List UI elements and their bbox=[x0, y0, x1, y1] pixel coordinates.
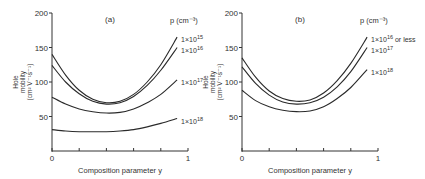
y-tick-label: 200 bbox=[35, 9, 49, 18]
series-label: 1×1016 or less bbox=[371, 34, 416, 43]
legend-title: p (cm⁻³) bbox=[360, 16, 388, 25]
y-tick-label: 200 bbox=[225, 9, 239, 18]
svg-text:(cm² V⁻¹s⁻¹): (cm² V⁻¹s⁻¹) bbox=[216, 64, 224, 101]
series-line bbox=[242, 48, 367, 105]
figure: 5010015020001Composition parameter yHole… bbox=[0, 0, 425, 179]
y-axis-label: Holemobility(cm² V⁻¹s⁻¹) bbox=[202, 64, 224, 101]
panel-b: 5010015020001Composition parameter yHole… bbox=[202, 9, 416, 175]
panel-a: 5010015020001Composition parameter yHole… bbox=[12, 9, 203, 175]
y-tick-label: 100 bbox=[225, 78, 239, 87]
series-line bbox=[52, 119, 177, 132]
x-tick-label: 1 bbox=[186, 154, 191, 163]
y-axis-label: Holemobility(cm² V⁻¹s⁻¹) bbox=[12, 64, 34, 101]
x-axis-label: Composition parameter y bbox=[268, 166, 352, 175]
series-label: 1×1017 bbox=[371, 45, 393, 54]
x-tick-label: 0 bbox=[240, 154, 245, 163]
y-tick-label: 50 bbox=[39, 113, 48, 122]
svg-text:(cm² V⁻¹s⁻¹): (cm² V⁻¹s⁻¹) bbox=[26, 64, 34, 101]
svg-text:Hole: Hole bbox=[12, 75, 19, 89]
series-label: 1×1017 bbox=[181, 77, 203, 86]
legend-title: p (cm⁻³) bbox=[170, 16, 198, 25]
panel-label: (b) bbox=[295, 15, 305, 24]
series-label: 1×1018 bbox=[181, 116, 203, 125]
x-tick-label: 0 bbox=[50, 154, 55, 163]
series-label: 1×1015 bbox=[181, 34, 203, 43]
series-line bbox=[52, 80, 177, 113]
y-tick-label: 50 bbox=[229, 113, 238, 122]
series-line bbox=[242, 37, 367, 101]
panel-label: (a) bbox=[105, 15, 115, 24]
series-label: 1×1018 bbox=[371, 67, 393, 76]
y-tick-label: 100 bbox=[35, 78, 49, 87]
series-label: 1×1016 bbox=[181, 45, 203, 54]
x-tick-label: 1 bbox=[376, 154, 381, 163]
series-line bbox=[242, 70, 367, 112]
svg-text:Hole: Hole bbox=[202, 75, 209, 89]
x-axis-label: Composition parameter y bbox=[78, 166, 162, 175]
y-tick-label: 150 bbox=[35, 44, 49, 53]
series-line bbox=[52, 37, 177, 103]
y-tick-label: 150 bbox=[225, 44, 239, 53]
